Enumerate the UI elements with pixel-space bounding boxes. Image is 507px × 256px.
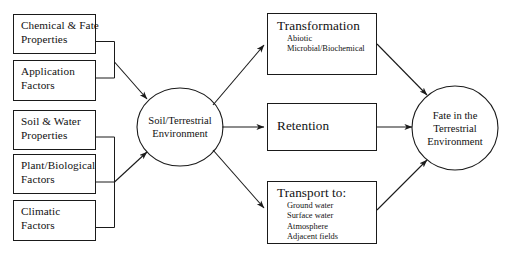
input-label-line2: Properties — [21, 33, 95, 47]
diagram-canvas: Chemical & Fate Properties Application F… — [0, 0, 507, 256]
input-box-climatic-factors[interactable]: Climatic Factors — [13, 200, 96, 241]
input-box-soil-water-properties[interactable]: Soil & Water Properties — [13, 110, 96, 150]
input-label-line2: Factors — [21, 219, 95, 233]
process-sub-list: Abiotic Microbial/Biochemical — [287, 34, 376, 55]
process-box-retention[interactable]: Retention — [267, 103, 377, 151]
input-label-line1: Climatic — [21, 205, 95, 219]
process-title: Retention — [277, 118, 376, 133]
process-sub-list: Ground water Surface water Atmosphere Ad… — [287, 201, 376, 243]
outcome-node-fate-in-terrestrial-environment[interactable]: Fate in the Terrestrial Environment — [412, 86, 498, 170]
process-box-transport-to[interactable]: Transport to: Ground water Surface water… — [267, 181, 377, 244]
process-title: Transformation — [277, 18, 376, 33]
center-node-soil-terrestrial-environment[interactable]: Soil/Terrestrial Environment — [137, 88, 223, 166]
process-sub-item: Abiotic — [287, 34, 376, 44]
process-sub-item: Surface water — [287, 211, 376, 221]
input-box-plant-biological-factors[interactable]: Plant/Biological Factors — [13, 154, 96, 194]
input-label-line1: Chemical & Fate — [21, 19, 95, 33]
process-sub-item: Microbial/Biochemical — [287, 44, 376, 54]
center-node-label: Soil/Terrestrial Environment — [148, 114, 211, 140]
process-title: Transport to: — [277, 185, 376, 200]
input-label-line1: Plant/Biological — [21, 159, 95, 173]
process-sub-item: Atmosphere — [287, 222, 376, 232]
bracket-upper-inputs — [96, 42, 115, 79]
input-label-line1: Soil & Water — [21, 115, 95, 129]
outcome-node-label: Fate in the Terrestrial Environment — [427, 109, 482, 148]
process-sub-item: Adjacent fields — [287, 232, 376, 242]
bracket-lower-inputs — [96, 137, 115, 228]
input-label-line2: Factors — [21, 173, 95, 187]
input-label-line2: Properties — [21, 129, 95, 143]
input-box-application-factors[interactable]: Application Factors — [13, 60, 96, 101]
process-sub-item: Ground water — [287, 201, 376, 211]
process-box-transformation[interactable]: Transformation Abiotic Microbial/Biochem… — [267, 13, 377, 75]
input-label-line1: Application — [21, 65, 95, 79]
input-box-chemical-fate-properties[interactable]: Chemical & Fate Properties — [13, 14, 96, 54]
input-label-line2: Factors — [21, 79, 95, 93]
